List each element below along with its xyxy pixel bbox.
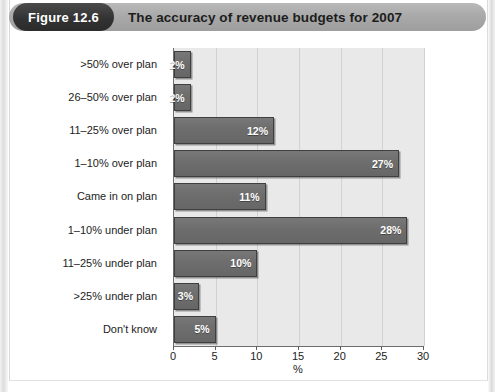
y-axis-label: 26–50% over plan xyxy=(68,81,157,114)
plot-area: 2%2%12%27%11%28%10%3%5% xyxy=(173,48,424,347)
gridline xyxy=(424,48,425,346)
bar-row: 10% xyxy=(174,247,424,280)
page-margin-left xyxy=(0,0,8,392)
figure-title: The accuracy of revenue budgets for 2007 xyxy=(128,3,402,31)
y-axis-label: 11–25% over plan xyxy=(69,114,157,147)
x-tick-label: 30 xyxy=(417,350,429,362)
page-margin-right xyxy=(488,0,495,392)
bar-row: 27% xyxy=(174,147,424,180)
bar-row: 12% xyxy=(174,114,424,147)
y-axis-label: 11–25% under plan xyxy=(62,247,157,280)
bar[interactable]: 5% xyxy=(174,316,216,343)
y-axis-label: >50% over plan xyxy=(80,48,157,81)
x-tick-label: 0 xyxy=(170,350,176,362)
bar-value-label: 11% xyxy=(239,191,264,203)
x-tick-label: 15 xyxy=(292,350,304,362)
x-tick-label: 5 xyxy=(212,350,218,362)
x-axis-ticks: 051015202530 xyxy=(173,346,423,362)
y-axis-label: 1–10% over plan xyxy=(74,147,157,180)
y-axis-label: 1–10% under plan xyxy=(68,214,157,247)
y-axis-label: Came in on plan xyxy=(77,180,157,213)
bar[interactable]: 3% xyxy=(174,283,199,310)
bar-value-label: 3% xyxy=(178,290,198,302)
bar-row: 2% xyxy=(174,81,424,114)
figure-page: Figure 12.6 The accuracy of revenue budg… xyxy=(0,0,495,392)
bar-row: 11% xyxy=(174,180,424,213)
bar-row: 5% xyxy=(174,313,424,346)
y-axis-label: >25% under plan xyxy=(74,280,157,313)
bar-value-label: 12% xyxy=(247,125,273,137)
bar[interactable]: 10% xyxy=(174,250,257,277)
chart: >50% over plan26–50% over plan11–25% ove… xyxy=(9,33,488,381)
x-tick-label: 10 xyxy=(250,350,262,362)
y-axis-label: Don't know xyxy=(103,313,157,346)
bar-value-label: 2% xyxy=(169,59,189,71)
x-axis-title: % xyxy=(173,363,423,375)
bar[interactable]: 2% xyxy=(174,84,191,111)
bar[interactable]: 11% xyxy=(174,183,266,210)
figure-number-badge: Figure 12.6 xyxy=(13,3,114,31)
bar[interactable]: 27% xyxy=(174,150,399,177)
x-tick-label: 20 xyxy=(334,350,346,362)
bar-value-label: 27% xyxy=(372,158,398,170)
bar-row: 3% xyxy=(174,280,424,313)
bar-row: 28% xyxy=(174,214,424,247)
bar[interactable]: 28% xyxy=(174,217,407,244)
x-tick-label: 25 xyxy=(375,350,387,362)
bar-row: 2% xyxy=(174,48,424,81)
bar[interactable]: 2% xyxy=(174,51,191,78)
bar[interactable]: 12% xyxy=(174,117,274,144)
y-axis-category-labels: >50% over plan26–50% over plan11–25% ove… xyxy=(9,48,165,346)
bar-value-label: 28% xyxy=(380,224,406,236)
bar-value-label: 5% xyxy=(194,323,214,335)
bar-value-label: 10% xyxy=(230,257,256,269)
bar-value-label: 2% xyxy=(169,92,189,104)
